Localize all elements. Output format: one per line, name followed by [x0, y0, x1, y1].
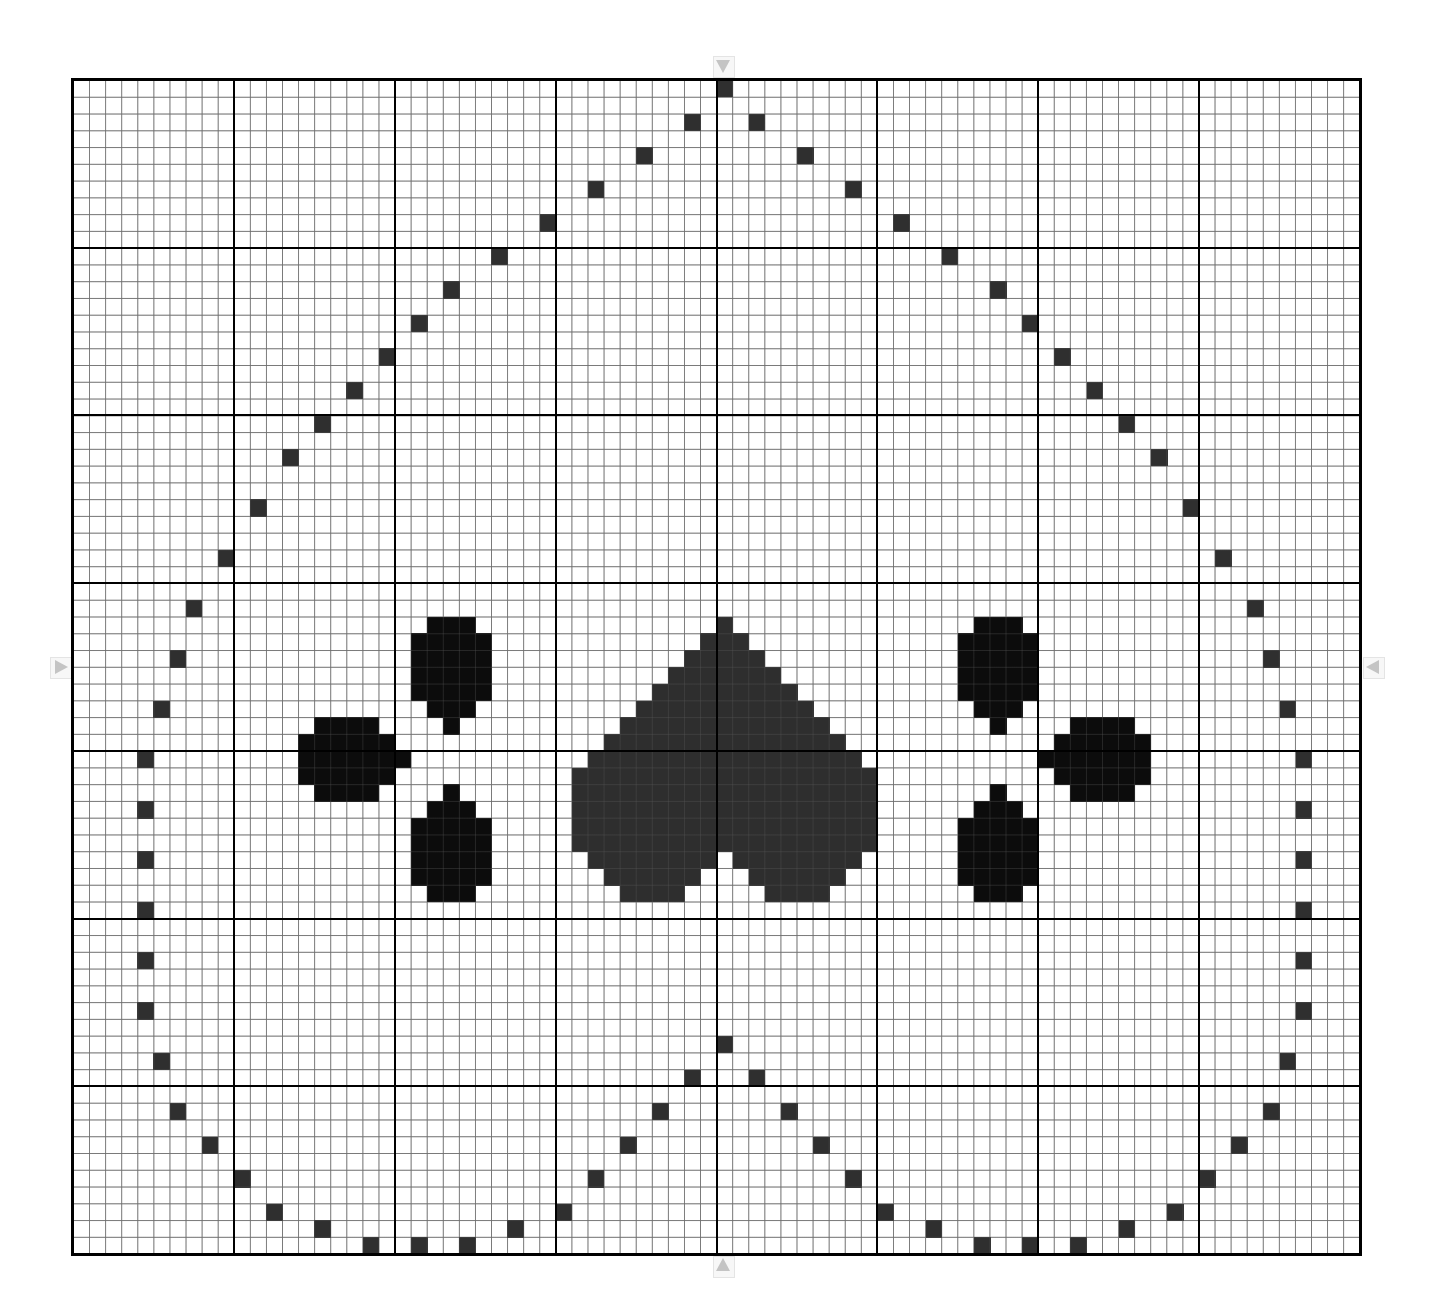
toe-left-stitch — [330, 768, 347, 785]
heart-pad-stitch — [797, 784, 814, 801]
toe-upper-left-stitch — [459, 667, 476, 684]
outline-dot-stitch — [491, 248, 508, 265]
toe-lower-left-stitch — [411, 835, 428, 852]
outline-dot-stitch — [1054, 348, 1071, 365]
toe-right-stitch — [1070, 768, 1087, 785]
toe-left-stitch — [363, 734, 380, 751]
toe-lower-left-stitch — [427, 801, 444, 818]
toe-lower-left-stitch — [475, 868, 492, 885]
heart-pad-stitch — [668, 667, 685, 684]
toe-left-stitch — [363, 717, 380, 734]
toe-lower-right-stitch — [958, 851, 975, 868]
heart-pad-stitch — [668, 768, 685, 785]
center-arrow-right-icon — [1366, 660, 1379, 674]
heart-pad-stitch — [620, 717, 637, 734]
toe-upper-left-stitch — [427, 667, 444, 684]
heart-pad-stitch — [636, 818, 653, 835]
heart-pad-stitch — [700, 684, 717, 701]
heart-pad-stitch — [829, 868, 846, 885]
toe-lower-right-stitch — [990, 835, 1007, 852]
toe-upper-left-stitch — [443, 684, 460, 701]
heart-pad-stitch — [652, 851, 669, 868]
toe-upper-right-stitch — [974, 667, 991, 684]
toe-left-stitch — [314, 734, 331, 751]
heart-pad-stitch — [588, 801, 605, 818]
toe-left-stitch — [330, 751, 347, 768]
toe-upper-left-stitch — [411, 684, 428, 701]
toe-upper-right-stitch — [990, 633, 1007, 650]
outline-dot-stitch — [1263, 650, 1280, 667]
outline-dot-stitch — [1296, 751, 1313, 768]
heart-pad-stitch — [749, 751, 766, 768]
outline-dot-stitch — [749, 114, 766, 131]
toe-left-stitch — [314, 717, 331, 734]
outline-dot-stitch — [170, 1103, 187, 1120]
heart-pad-stitch — [668, 784, 685, 801]
heart-pad-stitch — [797, 701, 814, 718]
outline-dot-stitch — [137, 902, 154, 919]
toe-lower-left-stitch — [443, 835, 460, 852]
toe-upper-right-stitch — [958, 650, 975, 667]
toe-lower-right-stitch — [974, 868, 991, 885]
toe-lower-left-stitch — [459, 868, 476, 885]
toe-upper-right-stitch — [1022, 650, 1039, 667]
toe-upper-left-stitch — [475, 684, 492, 701]
heart-pad-stitch — [588, 818, 605, 835]
outline-dot-stitch — [893, 214, 910, 231]
outline-dot-stitch — [781, 1103, 798, 1120]
heart-pad-stitch — [620, 751, 637, 768]
outline-dot-stitch — [137, 801, 154, 818]
heart-pad-stitch — [845, 801, 862, 818]
outline-dot-stitch — [346, 382, 363, 399]
heart-pad-stitch — [684, 801, 701, 818]
outline-dot-stitch — [411, 1237, 428, 1254]
heart-pad-stitch — [604, 751, 621, 768]
heart-pad-stitch — [765, 684, 782, 701]
heart-pad-stitch — [733, 650, 750, 667]
heart-pad-stitch — [813, 734, 830, 751]
heart-pad-stitch — [668, 701, 685, 718]
heart-pad-stitch — [717, 784, 734, 801]
heart-pad-stitch — [604, 801, 621, 818]
heart-pad-stitch — [829, 818, 846, 835]
heart-pad-stitch — [652, 784, 669, 801]
toe-upper-left-stitch — [443, 667, 460, 684]
outline-dot-stitch — [813, 1137, 830, 1154]
outline-dot-stitch — [636, 147, 653, 164]
outline-dot-stitch — [1231, 1137, 1248, 1154]
heart-pad-stitch — [861, 768, 878, 785]
outline-dot-stitch — [202, 1137, 219, 1154]
heart-pad-stitch — [700, 801, 717, 818]
outline-dot-stitch — [153, 1053, 170, 1070]
toe-upper-right-stitch — [990, 701, 1007, 718]
heart-pad-stitch — [765, 868, 782, 885]
toe-lower-left-stitch — [427, 835, 444, 852]
toe-upper-right-stitch — [958, 684, 975, 701]
heart-pad-stitch — [813, 818, 830, 835]
toe-lower-right-stitch — [990, 851, 1007, 868]
heart-pad-stitch — [684, 684, 701, 701]
toe-right-stitch — [1103, 751, 1120, 768]
heart-pad-stitch — [717, 768, 734, 785]
heart-pad-stitch — [749, 684, 766, 701]
heart-pad-stitch — [668, 868, 685, 885]
heart-pad-stitch — [797, 734, 814, 751]
center-arrow-top-icon — [716, 60, 730, 73]
toe-left-stitch — [363, 751, 380, 768]
toe-right-stitch — [1070, 734, 1087, 751]
outline-dot-stitch — [186, 600, 203, 617]
heart-pad-stitch — [813, 885, 830, 902]
toe-lower-left-stitch — [411, 818, 428, 835]
heart-pad-stitch — [700, 818, 717, 835]
heart-pad-stitch — [797, 768, 814, 785]
toe-lower-left-stitch — [427, 885, 444, 902]
toe-left-stitch — [298, 734, 315, 751]
outline-dot-stitch — [1215, 550, 1232, 567]
heart-pad-stitch — [700, 784, 717, 801]
outline-dot-stitch — [588, 181, 605, 198]
heart-pad-stitch — [684, 768, 701, 785]
heart-pad-stitch — [668, 734, 685, 751]
heart-pad-stitch — [717, 617, 734, 634]
heart-pad-stitch — [813, 784, 830, 801]
toe-upper-left-stitch — [475, 633, 492, 650]
